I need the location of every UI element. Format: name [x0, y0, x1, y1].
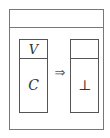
right-bottom-cell: ⊥ — [71, 58, 98, 112]
right-top-cell — [71, 40, 98, 59]
left-top-cell: V — [20, 40, 47, 59]
outer-frame: V C ⇒ ⊥ — [9, 9, 104, 130]
left-bottom-cell: C — [20, 58, 47, 112]
frame-header — [10, 10, 103, 28]
left-box: V C — [19, 39, 48, 113]
implies-arrow-icon: ⇒ — [52, 65, 68, 80]
right-box: ⊥ — [70, 39, 99, 113]
